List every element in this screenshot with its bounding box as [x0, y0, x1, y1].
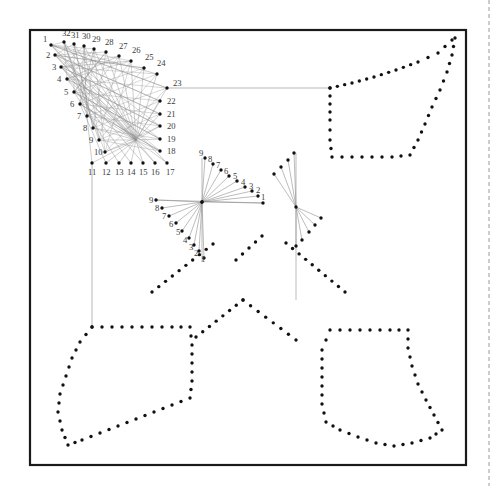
sw-polygon-dot — [190, 370, 193, 373]
ne-polygon-dot — [329, 147, 332, 150]
lattice-label-6: 6 — [70, 99, 75, 109]
se-polygon-dot — [322, 411, 325, 414]
ne-polygon-dot — [430, 105, 433, 108]
se-polygon-dot — [436, 421, 439, 424]
x-arm-upper-left-dot — [205, 248, 208, 251]
se-polygon-dot — [432, 413, 435, 416]
se-polygon-dot — [397, 328, 400, 331]
fan-lower-dot-4 — [187, 236, 190, 239]
se-polygon-dot — [428, 406, 431, 409]
lattice-label-17: 17 — [166, 167, 175, 177]
se-polygon-dot — [347, 432, 350, 435]
ne-polygon-dot — [328, 94, 331, 97]
lattice-dot-11 — [90, 161, 93, 164]
sw-polygon-dot — [143, 414, 146, 417]
fan-lower-label-8: 8 — [155, 203, 159, 213]
sw-polygon-dot — [134, 417, 137, 420]
lattice-label-4: 4 — [57, 74, 62, 84]
ne-polygon-dot — [450, 38, 453, 41]
ne-tail-dot — [234, 258, 237, 261]
ne-polygon-dot — [453, 36, 456, 39]
se-polygon-dot — [401, 443, 404, 446]
sw-polygon-dot — [116, 424, 119, 427]
se-polygon-dot — [428, 436, 431, 439]
chevron-right-dot — [287, 333, 290, 336]
fan-upper-label-8: 8 — [208, 154, 212, 164]
se-polygon-dot — [419, 439, 422, 442]
ne-polygon-dot — [402, 66, 405, 69]
se-polygon-dot — [338, 428, 341, 431]
fan-right-dot-3 — [307, 230, 310, 233]
sw-polygon-dot — [188, 396, 191, 399]
se-polygon-dot — [320, 357, 323, 360]
lattice-label-22: 22 — [167, 96, 176, 106]
ne-polygon-dot — [416, 60, 419, 63]
lattice-dot-3 — [59, 65, 62, 68]
lattice-label-18: 18 — [167, 146, 176, 156]
fan-upper-label-6: 6 — [224, 166, 229, 176]
x-arm-upper-right-dot — [291, 247, 294, 250]
fan-upper-dot-9 — [203, 156, 206, 159]
sw-polygon-dot — [150, 325, 153, 328]
se-polygon-dot — [434, 432, 437, 435]
sw-polygon-dot — [70, 356, 73, 359]
lattice-dot-26 — [129, 59, 132, 62]
ne-tail-dot — [260, 234, 263, 237]
lattice-dot-16 — [153, 161, 156, 164]
sw-polygon-dot — [84, 333, 87, 336]
se-polygon-dot — [406, 346, 409, 349]
ne-polygon-dot — [434, 97, 437, 100]
x-arm-upper-left-dot — [157, 285, 160, 288]
lattice-label-20: 20 — [167, 121, 176, 131]
x-arm-upper-left-dot — [184, 264, 187, 267]
x-arm-upper-right-dot — [343, 290, 346, 293]
lattice-label-11: 11 — [88, 167, 96, 177]
x-arm-upper-right-dot — [324, 274, 327, 277]
se-polygon-dot — [365, 438, 368, 441]
x-arm-upper-left-dot — [177, 269, 180, 272]
lattice-label-5: 5 — [64, 87, 68, 97]
ne-polygon-dot — [452, 45, 455, 48]
lattice-dot-27 — [117, 54, 120, 57]
se-polygon-dot — [320, 393, 323, 396]
lattice-label-31: 31 — [71, 30, 80, 40]
ne-polygon-dot — [328, 118, 331, 121]
ne-polygon-dot — [328, 128, 331, 131]
sw-polygon-dot — [189, 388, 192, 391]
ne-polygon-dot — [412, 146, 415, 149]
sw-polygon-dot — [160, 325, 163, 328]
ne-polygon-dot — [438, 88, 441, 91]
fan-right-dot-8 — [286, 158, 289, 161]
x-arm-upper-left-dot — [191, 258, 194, 261]
sw-polygon-dot — [190, 361, 193, 364]
x-arm-upper-right-dot — [337, 285, 340, 288]
lattice-label-2: 2 — [46, 50, 50, 60]
x-arm-upper-left-dot — [150, 290, 153, 293]
x-arm-upper-left-dot — [211, 242, 214, 245]
ne-polygon-dot — [328, 110, 331, 113]
sw-polygon-dot — [152, 410, 155, 413]
ne-polygon-dot — [365, 77, 368, 80]
ne-polygon-dot — [423, 122, 426, 125]
ne-polygon-dot — [343, 83, 346, 86]
sw-polygon-dot — [56, 410, 59, 413]
ne-polygon-dot — [328, 102, 331, 105]
fan-lower-hub — [200, 200, 203, 203]
sw-polygon-dot — [90, 325, 93, 328]
ne-polygon-dot — [328, 86, 331, 89]
se-polygon-dot — [410, 364, 413, 367]
ne-polygon-dot — [399, 154, 402, 157]
chevron-right-dot — [272, 321, 275, 324]
fan-right-dot-9 — [292, 151, 295, 154]
ne-polygon-dot — [448, 62, 451, 65]
x-arm-upper-left-dot — [164, 280, 167, 283]
fan-upper-label-1: 1 — [261, 192, 265, 202]
sw-polygon-dot — [74, 348, 77, 351]
lattice-label-3: 3 — [52, 62, 56, 72]
fan-lower-dot-7 — [167, 214, 170, 217]
ne-polygon-dot — [380, 73, 383, 76]
fan-upper-label-9: 9 — [199, 148, 203, 158]
fan-right-dot-2 — [313, 223, 316, 226]
sw-polygon-dot — [120, 325, 123, 328]
fan-lower-label-1: 1 — [201, 254, 205, 264]
